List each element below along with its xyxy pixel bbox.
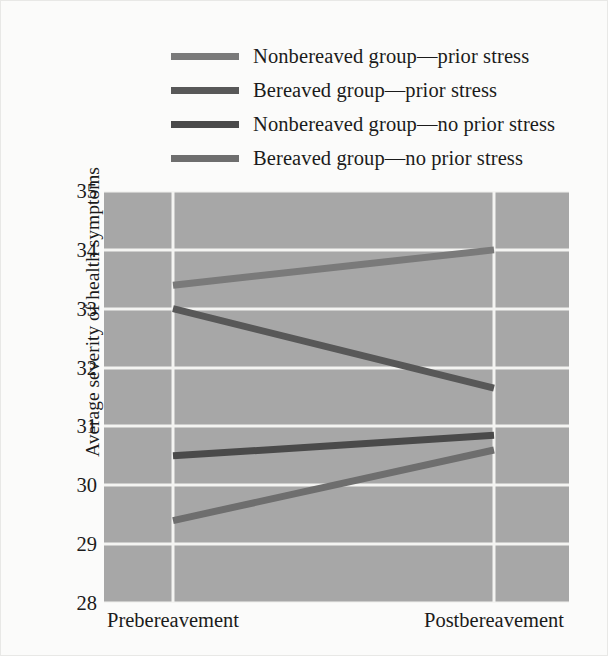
legend-item-label: Bereaved group—no prior stress [253, 147, 523, 170]
y-axis-tick-label: 32 [57, 356, 97, 379]
y-axis-tick-label: 28 [57, 592, 97, 615]
legend-swatch-icon [171, 155, 239, 162]
legend-item-label: Bereaved group—prior stress [253, 79, 497, 102]
chart-figure: Nonbereaved group—prior stress Bereaved … [0, 0, 608, 656]
legend-item: Nonbereaved group—prior stress [171, 39, 571, 73]
data-lines [104, 191, 569, 603]
y-axis-tick-label: 33 [57, 297, 97, 320]
legend-swatch-icon [171, 121, 239, 128]
legend-item-label: Nonbereaved group—no prior stress [253, 113, 555, 136]
chart-legend: Nonbereaved group—prior stress Bereaved … [171, 39, 571, 175]
data-line [173, 450, 494, 521]
data-line [173, 309, 494, 388]
x-axis-tick-label: Prebereavement [107, 609, 239, 632]
y-axis-tick-label: 35 [57, 180, 97, 203]
legend-swatch-icon [171, 53, 239, 60]
plot-area [104, 191, 569, 603]
x-axis-tick-label: Postbereavement [424, 609, 564, 632]
legend-item: Nonbereaved group—no prior stress [171, 107, 571, 141]
y-axis-tick-label: 29 [57, 533, 97, 556]
data-line [173, 435, 494, 456]
y-axis-tick-label: 31 [57, 415, 97, 438]
legend-swatch-icon [171, 87, 239, 94]
y-axis-tick-labels: 2829303132333435 [57, 191, 97, 603]
y-axis-tick-label: 30 [57, 474, 97, 497]
legend-item: Bereaved group—no prior stress [171, 141, 571, 175]
legend-item: Bereaved group—prior stress [171, 73, 571, 107]
y-axis-tick-label: 34 [57, 238, 97, 261]
legend-item-label: Nonbereaved group—prior stress [253, 45, 529, 68]
data-line [173, 250, 494, 285]
